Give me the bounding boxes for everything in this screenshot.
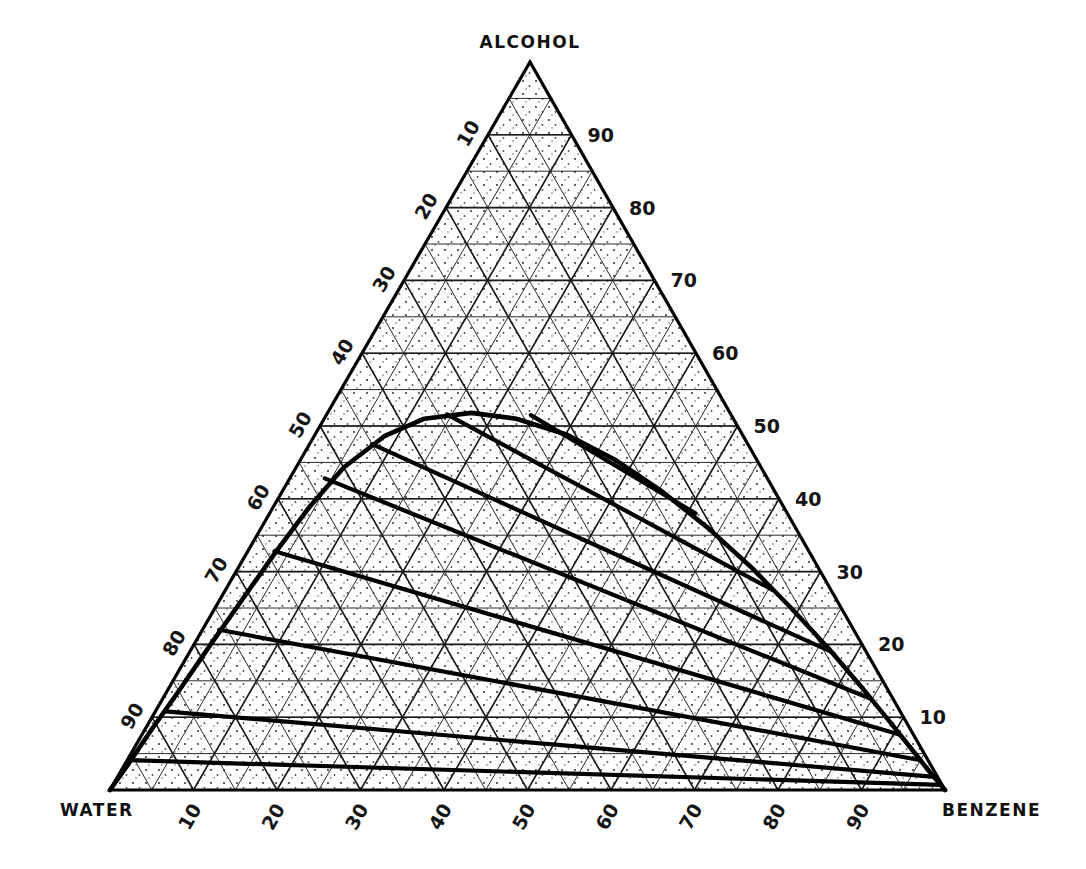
tick-left-30: 30 [368,262,400,296]
tick-bottom-40: 40 [424,800,456,834]
tick-right-80: 80 [629,197,655,219]
tick-left-20: 20 [410,189,442,223]
tick-right-20: 20 [878,633,904,655]
tick-left-40: 40 [326,335,358,369]
tick-left-80: 80 [158,626,190,660]
tick-right-40: 40 [795,488,821,510]
tick-bottom-50: 50 [507,800,539,834]
tick-bottom-90: 90 [841,800,873,834]
tick-right-50: 50 [754,415,780,437]
tick-right-90: 90 [588,124,614,146]
corner-label-water: WATER [60,800,134,820]
tick-bottom-30: 30 [340,800,372,834]
tick-left-70: 70 [200,553,232,587]
tick-right-60: 60 [712,342,738,364]
tick-left-90: 90 [116,699,148,733]
tick-left-50: 50 [284,408,316,442]
corner-label-benzene: BENZENE [942,800,1041,820]
tick-bottom-70: 70 [674,800,706,834]
ternary-diagram-figure: 1020304050607080909080706050403020101020… [0,0,1086,869]
tick-bottom-10: 10 [173,800,205,834]
tick-right-70: 70 [671,269,697,291]
tick-left-10: 10 [452,116,484,150]
ternary-plot-svg: 1020304050607080909080706050403020101020… [0,0,1086,869]
tick-bottom-60: 60 [591,800,623,834]
tick-right-10: 10 [920,706,946,728]
tick-bottom-80: 80 [758,800,790,834]
tick-right-30: 30 [837,561,863,583]
corner-label-alcohol: ALCOHOL [480,32,581,52]
tick-bottom-20: 20 [257,800,289,834]
tick-left-60: 60 [242,480,274,514]
